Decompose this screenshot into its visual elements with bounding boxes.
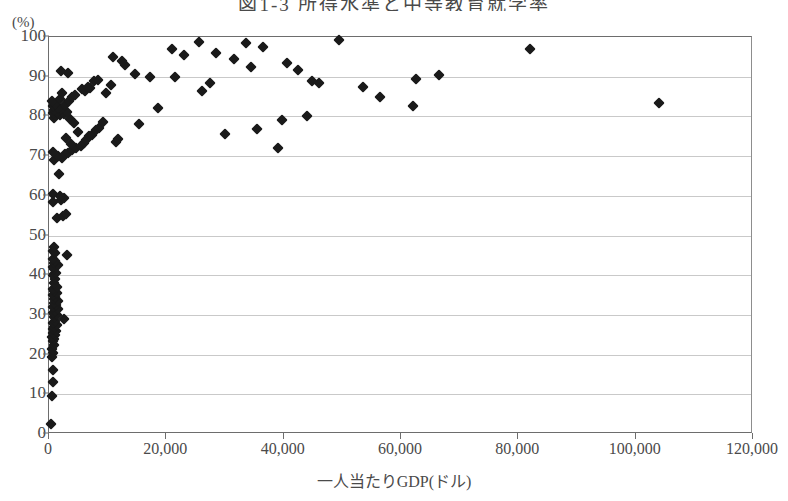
y-axis-tick-mark xyxy=(43,234,49,235)
scatter-point xyxy=(301,111,312,122)
y-axis-tick-mark xyxy=(43,353,49,354)
y-axis-tick-label: 50 xyxy=(0,225,46,245)
x-axis-title: 一人当たりGDP(ドル) xyxy=(0,468,788,492)
x-axis-tick-mark xyxy=(517,433,518,439)
y-axis-tick-label: 10 xyxy=(0,383,46,403)
scatter-points-layer xyxy=(49,37,751,432)
chart-figure: 図1-3 所得水準と中等教育就学率 (%) 010203040506070809… xyxy=(0,0,788,501)
x-axis-tick-mark xyxy=(752,433,753,439)
x-axis-tick-mark xyxy=(165,433,166,439)
scatter-point xyxy=(178,49,189,60)
scatter-point xyxy=(205,78,216,89)
x-axis-tick-label: 120,000 xyxy=(726,440,778,458)
y-axis-tick-label: 0 xyxy=(0,423,46,443)
scatter-point xyxy=(196,85,207,96)
scatter-point xyxy=(334,34,345,45)
scatter-point xyxy=(257,41,268,52)
x-axis-tick-mark xyxy=(283,433,284,439)
scatter-point xyxy=(169,72,180,83)
y-axis-tick-label: 60 xyxy=(0,185,46,205)
y-axis-tick-mark xyxy=(43,194,49,195)
x-axis-tick-label: 100,000 xyxy=(609,440,661,458)
scatter-point xyxy=(193,36,204,47)
y-axis-tick-label: 40 xyxy=(0,264,46,284)
scatter-point xyxy=(407,101,418,112)
scatter-point xyxy=(61,250,72,261)
scatter-point xyxy=(133,119,144,130)
scatter-point xyxy=(252,123,263,134)
x-axis-tick-mark xyxy=(48,433,49,439)
scatter-point xyxy=(433,69,444,80)
y-axis-tick-label: 30 xyxy=(0,304,46,324)
scatter-point xyxy=(240,37,251,48)
plot-area xyxy=(48,36,752,433)
y-axis-tick-label: 20 xyxy=(0,344,46,364)
scatter-point xyxy=(144,71,155,82)
scatter-point xyxy=(272,142,283,153)
y-axis-tick-mark xyxy=(43,155,49,156)
scatter-point xyxy=(281,57,292,68)
x-axis-tick-mark xyxy=(400,433,401,439)
scatter-point xyxy=(357,82,368,93)
x-axis-tick-label: 60,000 xyxy=(378,440,422,458)
x-axis-tick-label: 40,000 xyxy=(261,440,305,458)
x-axis-tick-label: 0 xyxy=(44,440,52,458)
y-axis-tick-mark xyxy=(43,274,49,275)
y-axis-tick-mark xyxy=(43,75,49,76)
y-axis-tick-mark xyxy=(43,115,49,116)
x-axis-tick-label: 80,000 xyxy=(495,440,539,458)
y-axis-tick-label: 100 xyxy=(0,26,46,46)
scatter-point xyxy=(152,102,163,113)
scatter-point xyxy=(653,97,664,108)
y-axis-tick-label: 90 xyxy=(0,66,46,86)
scatter-point xyxy=(524,43,535,54)
y-axis-tick-mark xyxy=(43,36,49,37)
scatter-point xyxy=(129,68,140,79)
scatter-point xyxy=(53,168,64,179)
x-axis-tick-label: 20,000 xyxy=(143,440,187,458)
y-axis-tick-mark xyxy=(43,313,49,314)
y-axis-tick-label: 70 xyxy=(0,145,46,165)
scatter-point xyxy=(47,377,58,388)
scatter-point xyxy=(293,64,304,75)
scatter-point xyxy=(246,61,257,72)
chart-title: 図1-3 所得水準と中等教育就学率 xyxy=(0,0,788,11)
scatter-point xyxy=(375,91,386,102)
scatter-point xyxy=(228,53,239,64)
y-axis-tick-label: 80 xyxy=(0,105,46,125)
y-axis-tick-mark xyxy=(43,393,49,394)
scatter-point xyxy=(46,418,57,429)
scatter-point xyxy=(277,115,288,126)
scatter-point xyxy=(47,365,58,376)
scatter-point xyxy=(410,73,421,84)
x-axis-tick-mark xyxy=(635,433,636,439)
scatter-point xyxy=(167,43,178,54)
scatter-point xyxy=(211,47,222,58)
scatter-point xyxy=(219,129,230,140)
